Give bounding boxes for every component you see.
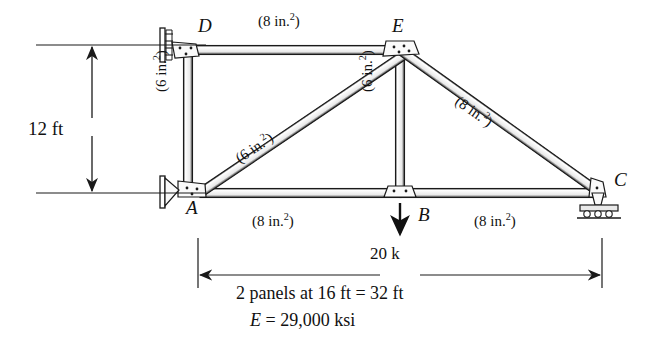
- joint-D-gusset: [172, 42, 199, 58]
- member-area-label-DE: (8 in.2): [258, 12, 300, 29]
- dimension-span-32ft: [198, 238, 602, 288]
- node-label-B: B: [418, 205, 430, 224]
- area-tail-EB: ): [359, 50, 375, 55]
- dimension-label-height: 12 ft: [28, 119, 63, 138]
- caption-modulus: E = 29,000 ksi: [250, 311, 355, 329]
- load-label-20k: 20 k: [370, 245, 400, 262]
- member-area-label-AB: (8 in.2): [252, 212, 294, 229]
- modulus-value: = 29,000 ksi: [261, 310, 355, 330]
- member-AE: [197, 50, 408, 197]
- member-EC: [397, 46, 602, 196]
- member-DA: [184, 50, 193, 194]
- member-EB: [396, 50, 405, 194]
- truss-figure: D E A B C (8 in.2) (6 in.2) (6 in.2) (6 …: [0, 0, 666, 346]
- joint-A-gusset: [178, 181, 206, 197]
- node-label-E: E: [392, 16, 404, 35]
- member-BC: [400, 189, 601, 198]
- node-label-D: D: [198, 16, 212, 35]
- area-text-DA: (6 in.: [153, 60, 169, 92]
- area-text-AB: (8 in.: [252, 213, 284, 229]
- member-area-label-EB: (6 in.2): [358, 50, 375, 92]
- member-AB: [200, 189, 401, 198]
- joint-B-gusset: [384, 186, 416, 197]
- area-text-BC: (8 in.: [474, 213, 506, 229]
- modulus-symbol: E: [250, 310, 261, 330]
- support-A-pin-wall: [160, 176, 179, 208]
- area-tail-AB: ): [289, 213, 294, 229]
- area-sup-DA: 2: [151, 55, 162, 60]
- area-sup-EB: 2: [357, 55, 368, 60]
- area-tail-DE: ): [295, 13, 300, 29]
- member-area-label-DA: (6 in.2): [152, 50, 169, 92]
- area-text-DE: (8 in.: [258, 13, 290, 29]
- area-text-EB: (6 in.: [359, 60, 375, 92]
- area-tail-DA: ): [153, 50, 169, 55]
- dimension-label-span: 2 panels at 16 ft = 32 ft: [236, 284, 404, 302]
- member-area-label-BC: (8 in.2): [474, 212, 516, 229]
- node-label-A: A: [186, 198, 198, 217]
- area-tail-BC: ): [511, 213, 516, 229]
- node-label-C: C: [614, 170, 627, 189]
- joint-E-gusset: [383, 41, 419, 56]
